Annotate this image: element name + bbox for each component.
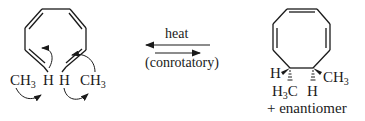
- product-h-left: H: [270, 66, 281, 81]
- product-enantiomer-note: + enantiomer: [267, 101, 347, 116]
- reactant-left-hydrogen: H: [43, 73, 54, 88]
- condition-heat: heat: [165, 27, 188, 41]
- stereo-bonds: [281, 68, 322, 80]
- product-skeleton: [273, 9, 330, 68]
- reactant-right-hydrogen: H: [59, 73, 70, 88]
- product-ch3-right: CH3: [323, 70, 349, 87]
- condition-conrotatory: (conrotatory): [145, 56, 219, 70]
- reactant-left-methyl: CH3: [10, 73, 36, 90]
- equilibrium-arrows: [146, 45, 210, 53]
- product-h3c-bottom: H3C: [272, 84, 298, 101]
- product-h-bottom: H: [307, 84, 318, 99]
- reactant-skeleton: [25, 9, 86, 72]
- reactant-right-methyl: CH3: [80, 73, 106, 90]
